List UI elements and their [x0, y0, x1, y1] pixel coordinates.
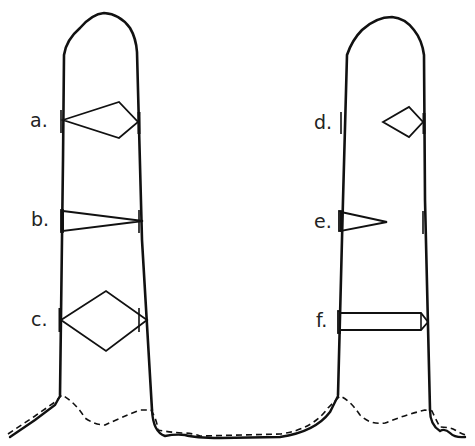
bar-f: [340, 313, 428, 330]
kite-a: [63, 102, 138, 138]
figure-b: [61, 210, 143, 233]
figure-e: [339, 211, 423, 234]
label-f: f.: [316, 309, 327, 331]
diamond-c: [61, 291, 147, 351]
label-d: d.: [314, 111, 332, 133]
pillar-diagram: a. b. c. d. e. f.: [0, 0, 475, 446]
figure-c: [60, 291, 147, 351]
ground-profile: [8, 395, 468, 438]
label-c: c.: [31, 308, 48, 330]
label-e: e.: [314, 210, 332, 232]
ground-dashed-line: [8, 395, 468, 436]
figure-d: [341, 107, 424, 137]
figure-a: [61, 102, 139, 138]
label-b: b.: [31, 208, 49, 230]
figure-f: [338, 311, 428, 333]
ground-solid-line: [10, 396, 465, 438]
triangle-e: [341, 212, 387, 231]
label-a: a.: [30, 109, 48, 131]
triangle-b: [63, 211, 143, 231]
kite-d: [383, 107, 423, 137]
